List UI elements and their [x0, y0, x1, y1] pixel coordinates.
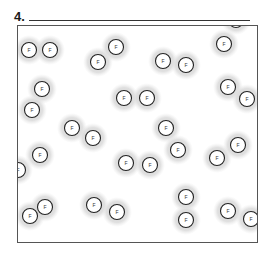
atom-label: F [70, 125, 73, 131]
atom: F [25, 103, 40, 118]
atom: F [91, 55, 106, 70]
atom: F [110, 205, 125, 220]
atom-label: F [249, 216, 252, 222]
atom: F [119, 156, 134, 171]
molecule-diagram: FFFFFFFFFFFFFFFFFFFFFFFFFFFFFFFF [0, 0, 274, 256]
atom: F [221, 204, 236, 219]
atom-label: F [245, 96, 248, 102]
atom: F [87, 198, 102, 213]
atom: F [171, 143, 186, 158]
atom-label: F [184, 217, 187, 223]
atom-label: F [91, 135, 94, 141]
atom-label: F [43, 204, 46, 210]
atom-label: F [124, 160, 127, 166]
atom: F [244, 212, 259, 227]
atom-label: F [30, 107, 33, 113]
atom: F [240, 92, 255, 107]
atom: F [179, 190, 194, 205]
atom: F [109, 40, 124, 55]
atom-label: F [226, 84, 229, 90]
atom-label: F [48, 47, 51, 53]
atom-label: F [122, 95, 125, 101]
atom-label: F [148, 162, 151, 168]
atom: F [179, 213, 194, 228]
atom: F [38, 200, 53, 215]
atom-label: F [96, 59, 99, 65]
atom-label: F [92, 202, 95, 208]
atom-label: F [234, 17, 237, 23]
atom: F [11, 163, 26, 178]
atom: F [22, 43, 37, 58]
atom: F [156, 54, 171, 69]
atom-label: F [164, 125, 167, 131]
atom: F [210, 151, 225, 166]
atom-label: F [222, 41, 225, 47]
atom: F [140, 91, 155, 106]
atom-label: F [236, 142, 239, 148]
atom-label: F [184, 62, 187, 68]
atom: F [23, 209, 38, 224]
atom-label: F [176, 147, 179, 153]
atom-label: F [28, 213, 31, 219]
atom: F [179, 58, 194, 73]
atom: F [86, 131, 101, 146]
atom-label: F [40, 86, 43, 92]
atom-label: F [16, 167, 19, 173]
atom: F [159, 121, 174, 136]
atom-label: F [27, 47, 30, 53]
atom: F [35, 82, 50, 97]
atom: F [65, 121, 80, 136]
atom-label: F [161, 58, 164, 64]
atom: F [221, 80, 236, 95]
atom: F [43, 43, 58, 58]
atom: F [217, 37, 232, 52]
atom-label: F [114, 44, 117, 50]
atom: F [231, 138, 246, 153]
atom-label: F [226, 208, 229, 214]
atom: F [33, 148, 48, 163]
atom-outline [229, 13, 244, 28]
atom: F [117, 91, 132, 106]
atom-label: F [115, 209, 118, 215]
atom: F [229, 13, 244, 28]
atom-label: F [215, 155, 218, 161]
atom-label: F [38, 152, 41, 158]
atom-label: F [184, 194, 187, 200]
atom: F [143, 158, 158, 173]
atom-label: F [145, 95, 148, 101]
